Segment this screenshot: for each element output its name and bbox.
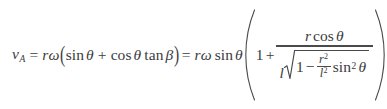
radicand-one: 1 [296, 58, 304, 75]
term1-theta-2: θ [134, 46, 142, 64]
numerator-r: r [305, 27, 311, 44]
square-root: 1−r2l2sin2θ [284, 50, 369, 82]
fraction-numerator: rcosθ [299, 27, 350, 45]
big-close-paren [374, 9, 387, 101]
radicand-theta: θ [358, 58, 366, 75]
radicand: 1−r2l2sin2θ [294, 50, 369, 82]
inner-fraction: r2l2 [317, 53, 331, 80]
equals-sign-2: = [182, 46, 191, 64]
term2-omega: ω [201, 46, 212, 64]
variable-v: v [12, 45, 19, 62]
term1-sin: sin [66, 46, 84, 64]
term2-sin: sin [215, 46, 233, 64]
radicand-sin-exponent: 2 [352, 61, 357, 71]
term2-theta: θ [235, 46, 243, 64]
big-open-paren [243, 9, 256, 101]
main-fraction: rcosθ l 1−r2l2sin2θ [276, 27, 374, 82]
lhs-variable: vA [12, 45, 25, 64]
term1-close-paren: ) [174, 41, 179, 67]
radicand-minus: − [306, 58, 315, 75]
numerator-cos: cos [313, 27, 334, 44]
inner-fraction-denominator: l2 [318, 67, 330, 80]
term1-plus: + [98, 46, 107, 64]
fraction-denominator: l 1−r2l2sin2θ [276, 47, 374, 82]
equation-expression: vA = rω(sinθ+cosθtanβ) = rωsinθ 1+ rcosθ… [12, 0, 387, 109]
term1-beta: β [166, 46, 174, 64]
term2-plus: + [266, 46, 275, 64]
equals-sign-1: = [29, 46, 38, 64]
inner-den-exponent: 2 [323, 66, 327, 75]
term1-omega: ω [48, 46, 59, 64]
term2-one: 1 [256, 46, 264, 64]
radicand-sin: sin [333, 58, 351, 75]
term1-cos: cos [111, 46, 132, 64]
inner-fraction-numerator: r2 [317, 53, 330, 66]
numerator-theta: θ [336, 27, 344, 44]
inner-num-exponent: 2 [324, 52, 328, 61]
term1-tan: tan [144, 46, 163, 64]
term1-open-paren: ( [60, 41, 65, 67]
term1-theta-1: θ [86, 46, 94, 64]
subscript-a: A [19, 54, 25, 64]
